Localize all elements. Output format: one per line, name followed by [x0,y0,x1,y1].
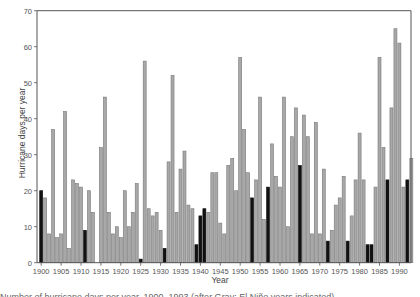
x-tick-label: 1920 [112,267,129,276]
bar [219,223,222,263]
bar [187,205,190,263]
bar [239,58,242,263]
bar-highlighted [163,248,166,262]
bar [338,198,341,263]
bar-highlighted [139,259,142,263]
bar [183,151,186,263]
bar [87,191,90,263]
bar [255,180,258,263]
bar [111,234,114,263]
bar [322,169,325,263]
bar [52,130,55,263]
bar-highlighted [203,209,206,263]
bar-chart: 0102030405060701900190519101915192019251… [0,0,420,297]
y-tick-label: 70 [24,7,32,16]
bar [223,234,226,263]
bar [231,158,234,262]
bar [80,187,83,263]
bar [350,216,353,263]
bar [394,29,397,263]
x-tick-label: 1985 [371,267,388,276]
bar [362,180,365,263]
bar-highlighted [386,180,389,263]
bar [302,115,305,263]
bar-highlighted [267,187,270,263]
bar [314,122,317,262]
bar [119,238,122,263]
x-tick-label: 1990 [391,267,408,276]
bar [76,184,79,263]
bar [48,234,51,263]
bar [91,212,94,262]
bar [68,248,71,262]
x-tick-label: 1930 [152,267,169,276]
bar [211,173,214,263]
bar [243,130,246,263]
bar [99,148,102,263]
x-tick-label: 1905 [53,267,70,276]
x-tick-label: 1955 [252,267,269,276]
bar-highlighted [406,180,409,263]
bar [378,58,381,263]
bar [72,180,75,263]
figure-caption-clipped: Number of hurricane days per year, 1900–… [0,290,420,297]
bar [151,216,154,263]
x-tick-label: 1900 [33,267,50,276]
y-tick-label: 60 [24,43,32,52]
x-tick-label: 1915 [93,267,110,276]
y-tick-label: 10 [24,223,32,232]
bar [382,148,385,263]
x-tick-label: 1925 [132,267,149,276]
bar [167,162,170,263]
x-tick-label: 1935 [172,267,189,276]
bar [131,212,134,262]
bar [143,61,146,263]
x-axis-label: Year [200,275,240,285]
bar [306,137,309,263]
y-tick-label: 0 [28,259,32,268]
bar [398,43,401,263]
bar [60,234,63,263]
bar [390,108,393,263]
bar [263,220,266,263]
bar [207,212,210,262]
bar [330,230,333,262]
bar [271,144,274,263]
bar [107,212,110,262]
bar [179,169,182,263]
x-tick-label: 1960 [272,267,289,276]
bar-highlighted [326,241,329,263]
bar [358,133,361,263]
bar-highlighted [366,245,369,263]
x-tick-label: 1980 [351,267,368,276]
bar [155,212,158,262]
bar [123,191,126,263]
bar [175,212,178,262]
bar-highlighted [40,191,43,263]
bar-highlighted [83,230,86,262]
bar [171,76,174,263]
bar [247,173,250,263]
bar [64,112,67,263]
bar-highlighted [195,245,198,263]
bar [374,187,377,263]
bar [282,97,285,263]
bar [402,187,405,263]
bar [290,137,293,263]
bar [286,227,289,263]
bar [135,184,138,263]
bar [294,108,297,263]
bar [56,238,59,263]
bar [227,166,230,263]
y-axis-label: Hurricane days per year [17,73,27,193]
bar [275,176,278,262]
bar [318,234,321,263]
bar-highlighted [199,216,202,263]
bar [354,180,357,263]
x-tick-label: 1970 [311,267,328,276]
bar [159,230,162,262]
bar [259,97,262,263]
bar [235,191,238,263]
x-tick-label: 1910 [73,267,90,276]
bar-highlighted [251,198,254,263]
